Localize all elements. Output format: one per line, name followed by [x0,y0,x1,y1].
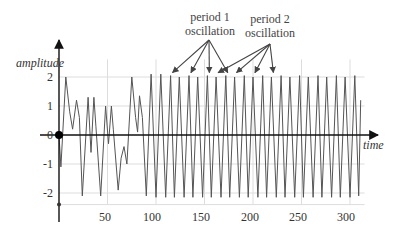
x-tick-100: 100 [143,210,161,225]
y-tick-neg1: -1 [43,157,53,172]
x-tick-300: 300 [337,210,355,225]
x-tick-50: 50 [99,210,111,225]
annotation-arrows [172,40,273,73]
y-axis-label: amplitude [16,56,64,71]
x-axis-label: time [363,138,384,153]
annotation-period-2: period 2 oscillation [238,12,302,40]
x-tick-200: 200 [241,210,259,225]
annotation-period-1-line1: period 1 [178,10,242,24]
y-tick-2: 2 [47,70,53,85]
annotation-period-2-line1: period 2 [238,12,302,26]
y-tick-1: 1 [47,99,53,114]
x-tick-250: 250 [289,210,307,225]
annotation-period-1-line2: oscillation [178,24,242,38]
y-tick-neg2: -2 [43,186,53,201]
annotation-period-2-line2: oscillation [238,26,302,40]
x-tick-150: 150 [192,210,210,225]
annotation-period-1: period 1 oscillation [178,10,242,38]
y-tick-0: 0 [47,128,53,143]
